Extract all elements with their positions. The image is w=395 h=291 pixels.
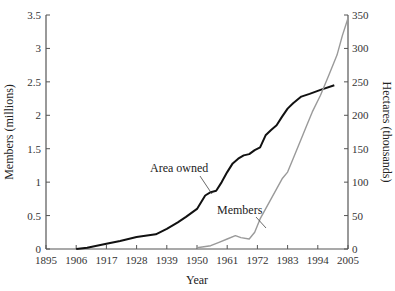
y-axis-title-left: Members (millions) (2, 84, 16, 180)
y-tick-label-left: 1.5 (27, 143, 41, 155)
y-tick-label-right: 50 (352, 210, 364, 222)
x-tick-label: 1950 (186, 254, 209, 266)
x-tick-label: 1939 (156, 254, 179, 266)
y-tick-label-right: 250 (352, 76, 369, 88)
x-tick-label: 1906 (65, 254, 88, 266)
x-tick-label: 2005 (337, 254, 360, 266)
y-tick-label-right: 300 (352, 42, 369, 54)
x-tick-label: 1994 (307, 254, 330, 266)
line-chart: 00.511.522.533.5050100150200250300350189… (0, 0, 395, 291)
annotation-members: Members (217, 203, 263, 217)
y-tick-label-left: 3 (36, 42, 42, 54)
x-tick-label: 1972 (246, 254, 268, 266)
y-tick-label-left: 3.5 (27, 9, 41, 21)
y-tick-label-right: 200 (352, 109, 369, 121)
y-tick-label-left: 2.5 (27, 76, 41, 88)
x-tick-label: 1961 (216, 254, 238, 266)
y-tick-label-left: 0.5 (27, 210, 41, 222)
x-tick-label: 1928 (126, 254, 149, 266)
axes (46, 15, 348, 249)
annotation-area-owned: Area owned (150, 161, 208, 175)
y-tick-label-left: 2 (36, 109, 42, 121)
annotation-leader-area-owned (200, 176, 212, 194)
y-tick-label-right: 100 (352, 176, 369, 188)
x-tick-label: 1983 (277, 254, 300, 266)
x-tick-label: 1917 (95, 254, 118, 266)
y-tick-label-right: 350 (352, 9, 369, 21)
x-tick-label: 1895 (35, 254, 58, 266)
series-lines (76, 18, 348, 249)
y-tick-label-right: 150 (352, 143, 369, 155)
y-axis-title-right: Hectares (thousands) (380, 82, 394, 183)
y-tick-label-left: 1 (36, 176, 42, 188)
x-axis-title: Year (186, 273, 208, 287)
axis-labels: 00.511.522.533.5050100150200250300350189… (2, 9, 394, 287)
